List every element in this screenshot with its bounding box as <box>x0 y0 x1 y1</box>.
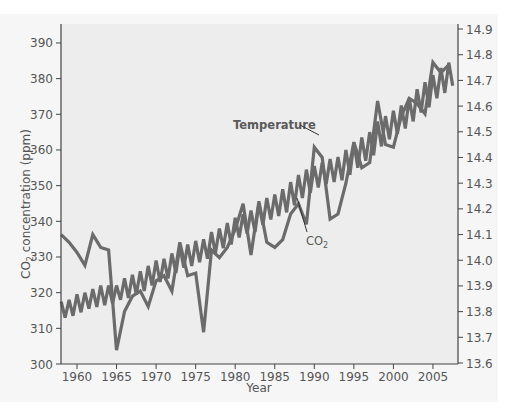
temperature-line <box>61 62 449 350</box>
right-tick-label: 14.4 <box>466 151 493 165</box>
temperature-label: Temperature <box>233 118 316 132</box>
series-layer <box>61 62 453 350</box>
x-tick-label: 1965 <box>101 370 132 384</box>
right-tick-label: 14.1 <box>466 228 493 242</box>
co2-leader-line <box>297 198 307 232</box>
left-tick-label: 360 <box>30 143 53 157</box>
x-tick-label: 1995 <box>339 370 370 384</box>
right-tick-label: 14.2 <box>466 202 493 216</box>
co2-annotation: CO2 <box>297 198 328 250</box>
right-tick-label: 14.3 <box>466 177 493 191</box>
right-tick-label: 13.8 <box>466 305 493 319</box>
right-tick-label: 13.9 <box>466 279 493 293</box>
left-tick-label: 390 <box>30 36 53 50</box>
left-tick-label: 320 <box>30 286 53 300</box>
x-tick-label: 2005 <box>418 370 449 384</box>
axes-layer <box>61 24 458 364</box>
right-tick-label: 13.7 <box>466 331 493 345</box>
x-tick-label: 1970 <box>141 370 172 384</box>
right-tick-label: 14.5 <box>466 125 493 139</box>
left-tick-label: 300 <box>30 358 53 372</box>
co2-label: CO2 <box>306 234 328 250</box>
x-axis-title: Year <box>245 381 271 395</box>
left-tick-label: 370 <box>30 108 53 122</box>
left-tick-label: 380 <box>30 72 53 86</box>
temperature-annotation: Temperature <box>233 118 319 135</box>
left-tick-label: 310 <box>30 322 53 336</box>
x-tick-label: 2000 <box>378 370 409 384</box>
right-tick-label: 14.8 <box>466 48 493 62</box>
left-y-ticks: 300310320330340350360370380390 <box>30 36 61 371</box>
left-tick-label: 350 <box>30 179 53 193</box>
x-tick-label: 1960 <box>62 370 93 384</box>
co2-line <box>61 63 453 318</box>
x-tick-label: 1975 <box>180 370 211 384</box>
right-tick-label: 14.9 <box>466 23 493 37</box>
co2-temperature-chart: 300310320330340350360370380390 13.613.71… <box>0 0 510 419</box>
right-tick-label: 14.0 <box>466 254 493 268</box>
x-tick-label: 1990 <box>299 370 330 384</box>
right-tick-label: 13.6 <box>466 357 493 371</box>
right-y-ticks: 13.613.713.813.914.014.114.214.314.414.5… <box>458 23 493 371</box>
right-tick-label: 14.7 <box>466 74 493 88</box>
y-axis-left-title: CO2 concentration (ppm) <box>19 129 35 279</box>
left-tick-label: 340 <box>30 215 53 229</box>
right-tick-label: 14.6 <box>466 100 493 114</box>
